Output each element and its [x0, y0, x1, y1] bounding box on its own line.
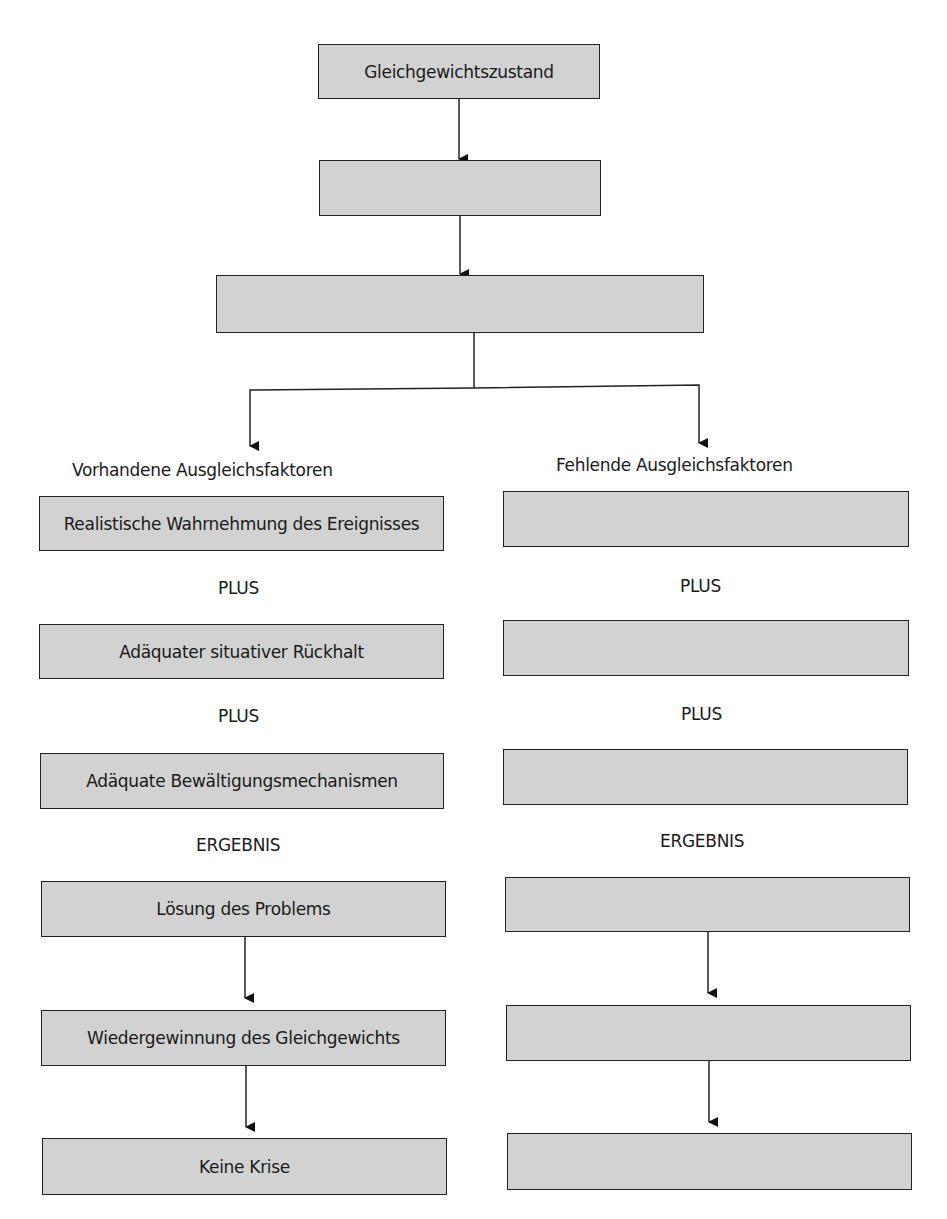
- left-box-no-crisis: Keine Krise: [42, 1138, 447, 1195]
- branch-right-arrow: [474, 385, 699, 443]
- left-heading: Vorhandene Ausgleichsfaktoren: [72, 460, 333, 480]
- right-box-6-blank: [507, 1133, 912, 1190]
- box-top-3-blank: [216, 275, 704, 333]
- right-box-3-blank: [503, 749, 908, 805]
- left-plus-2: PLUS: [218, 706, 259, 726]
- right-plus-1: PLUS: [680, 576, 721, 596]
- left-box-regain-balance: Wiedergewinnung des Gleichgewichts: [41, 1010, 446, 1066]
- right-result-label: ERGEBNIS: [660, 831, 744, 851]
- right-plus-2: PLUS: [681, 704, 722, 724]
- right-box-5-blank: [506, 1005, 911, 1061]
- branch-left-arrow: [250, 388, 474, 446]
- box-gleichgewichtszustand: Gleichgewichtszustand: [318, 44, 600, 99]
- left-box-coping: Adäquate Bewältigungsmechanismen: [40, 753, 444, 809]
- left-box-problem-solved: Lösung des Problems: [41, 881, 446, 937]
- right-box-4-blank: [505, 877, 910, 932]
- left-plus-1: PLUS: [218, 578, 259, 598]
- left-box-support: Adäquater situativer Rückhalt: [39, 624, 444, 679]
- left-result-label: ERGEBNIS: [196, 835, 280, 855]
- right-heading: Fehlende Ausgleichsfaktoren: [556, 455, 793, 475]
- right-box-2-blank: [503, 620, 909, 676]
- box-top-2-blank: [319, 160, 601, 216]
- right-box-1-blank: [503, 491, 909, 547]
- left-box-perception: Realistische Wahrnehmung des Ereignisses: [39, 496, 444, 551]
